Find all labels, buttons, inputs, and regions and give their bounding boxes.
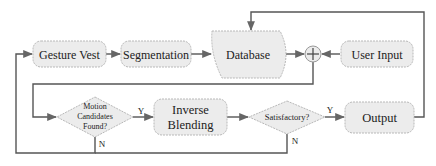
motion-candidates-label-3: Found? — [83, 122, 107, 131]
output-label: Output — [362, 111, 397, 125]
satisfactory-no-label: N — [292, 136, 299, 146]
satisfactory-yes-label: Y — [327, 105, 334, 115]
motion-yes-label: Y — [138, 106, 145, 116]
node-sum-junction — [305, 46, 321, 62]
flowchart: Gesture Vest Segmentation Database User … — [0, 0, 436, 166]
satisfactory-label: Satisfactory? — [265, 112, 310, 122]
gesture-vest-label: Gesture Vest — [39, 48, 100, 62]
inverse-blending-label-2: Blending — [168, 118, 215, 132]
node-database: Database — [212, 31, 286, 78]
node-gesture-vest: Gesture Vest — [33, 41, 106, 67]
inverse-blending-label-1: Inverse — [172, 103, 209, 117]
motion-no-label: N — [99, 139, 106, 149]
node-user-input: User Input — [341, 41, 413, 67]
database-label: Database — [226, 48, 270, 62]
user-input-label: User Input — [352, 48, 404, 62]
edge-satisfactory-no — [95, 134, 287, 153]
node-satisfactory-diamond: Satisfactory? — [249, 101, 325, 134]
motion-candidates-label-1: Motion — [83, 102, 107, 111]
segmentation-label: Segmentation — [123, 48, 189, 62]
node-output: Output — [345, 102, 414, 133]
node-motion-candidates-diamond: Motion Candidates Found? — [57, 97, 133, 137]
node-segmentation: Segmentation — [121, 41, 191, 67]
motion-candidates-label-2: Candidates — [77, 112, 113, 121]
node-inverse-blending: Inverse Blending — [154, 99, 227, 135]
